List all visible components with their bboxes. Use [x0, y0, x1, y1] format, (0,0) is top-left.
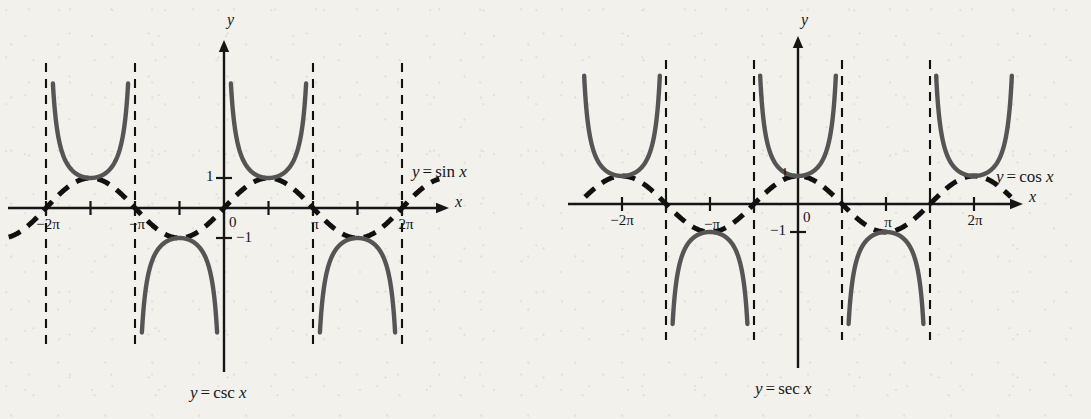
y-axis-arrowhead	[793, 36, 803, 48]
series-sec-branch-3-0	[849, 232, 924, 324]
sec-plot-svg	[546, 0, 1091, 419]
sec-curve-label-lhs: y	[996, 167, 1004, 186]
sec-caption-op: =	[763, 379, 779, 398]
csc-curve-label-fn: sin	[435, 162, 455, 181]
series-sec-branch-1-0	[673, 232, 748, 324]
chart-panel-sec: y x −2π −π π 2π 1 −1 0 y=cos x y=sec x	[546, 0, 1091, 419]
csc-plot-svg	[0, 0, 545, 419]
csc-curve-label-arg: x	[459, 162, 467, 181]
series-csc-branch-1-0	[142, 238, 217, 332]
chart-panel-csc: y x −2π −π π 2π 1 −1 0 y=sin x y=csc x	[0, 0, 545, 419]
csc-caption: y=csc x	[190, 384, 247, 401]
sec-xtick-label-negpi: −π	[704, 217, 720, 232]
csc-ytick-label-negone: −1	[236, 230, 252, 245]
x-axis-arrowhead	[436, 203, 449, 213]
sec-curve-label-arg: x	[1046, 167, 1054, 186]
sec-caption-arg: x	[804, 379, 812, 398]
y-axis-arrowhead	[219, 40, 229, 52]
csc-sine-curve-label: y=sin x	[412, 163, 467, 180]
series-csc-branch-3-0	[320, 238, 395, 332]
csc-xtick-label-2pi: 2π	[398, 217, 413, 232]
series-csc-branch-0-0	[53, 84, 128, 178]
sec-ytick-label-negone: −1	[770, 223, 786, 238]
sec-caption-fn: sec	[778, 379, 800, 398]
sec-xtick-label-neg2pi: −2π	[610, 213, 634, 228]
sec-curve-label-op: =	[1004, 167, 1020, 186]
sec-origin-label: 0	[803, 210, 811, 225]
sec-xtick-label-pi: π	[884, 215, 892, 230]
csc-ytick-label-one: 1	[206, 169, 214, 184]
sec-y-axis-label: y	[801, 12, 808, 28]
series-sec-branch-0-0	[584, 76, 660, 176]
sec-x-axis-label: x	[1029, 189, 1036, 205]
csc-caption-op: =	[198, 383, 214, 402]
sec-caption: y=sec x	[755, 380, 812, 397]
sec-cosine-curve-label: y=cos x	[996, 168, 1054, 185]
csc-xtick-label-pi: π	[311, 217, 319, 232]
sec-curve-label-fn: cos	[1019, 167, 1042, 186]
csc-x-axis-label: x	[455, 194, 462, 210]
csc-caption-fn: csc	[213, 383, 235, 402]
figure-trig-reciprocal-graphs: y x −2π −π π 2π 1 −1 0 y=sin x y=csc x y…	[0, 0, 1091, 419]
csc-caption-lhs: y	[190, 383, 198, 402]
csc-xtick-label-negpi: −π	[129, 217, 145, 232]
x-axis-arrowhead	[1010, 199, 1023, 209]
sec-caption-lhs: y	[755, 379, 763, 398]
series-sec-branch-4-0	[936, 76, 1012, 176]
csc-y-axis-label: y	[227, 12, 234, 28]
sec-xtick-label-2pi: 2π	[967, 213, 982, 228]
csc-curve-label-op: =	[420, 162, 436, 181]
csc-caption-arg: x	[239, 383, 247, 402]
csc-xtick-label-neg2pi: −2π	[36, 217, 60, 232]
csc-curve-label-lhs: y	[412, 162, 420, 181]
csc-origin-label: 0	[229, 215, 237, 230]
series-csc-branch-2-0	[231, 84, 306, 178]
sec-ytick-label-one: 1	[781, 166, 789, 181]
